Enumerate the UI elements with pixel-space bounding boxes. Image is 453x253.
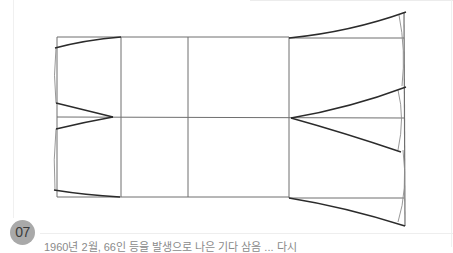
left-top-curve (55, 37, 121, 48)
right-center-flare-lower (291, 118, 401, 152)
figure-caption: 1960년 2월, 66인 등을 발생으로 나은 기다 삼음 ... 다시 (44, 241, 297, 253)
caption-divider (40, 233, 453, 234)
guide-grid (57, 12, 405, 226)
hem-arc-2 (398, 90, 402, 150)
left-bottom-curve (54, 190, 120, 197)
hem-arc-3 (398, 150, 405, 222)
left-arc-1 (55, 48, 57, 103)
pattern-lines (54, 12, 406, 226)
left-dart-upper (56, 103, 113, 117)
hem-arc-1 (399, 15, 403, 86)
left-dart-lower (56, 117, 113, 129)
right-center-flare-upper (291, 87, 406, 118)
right-bottom-flare (289, 198, 405, 226)
right-top-flare (289, 12, 406, 38)
figure-number-badge: 07 (10, 220, 35, 245)
left-arc-2 (54, 129, 56, 190)
